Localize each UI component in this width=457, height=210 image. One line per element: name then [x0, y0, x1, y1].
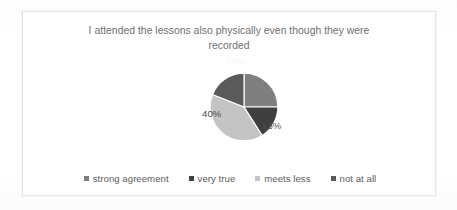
legend-swatch-icon — [255, 176, 260, 181]
legend-item-very-true[interactable]: very true — [189, 173, 236, 184]
pie-data-label-very-true: 16% — [262, 120, 282, 131]
legend-swatch-icon — [189, 176, 194, 181]
pie-svg — [208, 71, 280, 143]
legend-label: meets less — [264, 173, 310, 184]
chart-legend: strong agreement very true meets less no… — [60, 170, 400, 186]
figure-root: I attended the lessons also physically e… — [0, 0, 457, 210]
chart-title-line-1: I attended the lessons also physically e… — [36, 24, 422, 39]
legend-swatch-icon — [84, 176, 89, 181]
legend-swatch-icon — [331, 176, 336, 181]
legend-item-meets-less[interactable]: meets less — [255, 173, 310, 184]
pie-chart: 40% 16% 25% — [150, 60, 340, 160]
legend-label: very true — [198, 173, 236, 184]
pie-data-label-strong-agreement: 25% — [226, 56, 245, 66]
legend-label: not at all — [340, 173, 377, 184]
chart-title-line-2: recorded — [36, 39, 422, 54]
plot-area: 40% 16% 25% — [150, 60, 340, 160]
chart-title: I attended the lessons also physically e… — [36, 24, 422, 53]
legend-label: strong agreement — [93, 173, 169, 184]
pie-data-label-meets-less: 40% — [202, 108, 222, 119]
legend-item-strong-agreement[interactable]: strong agreement — [84, 173, 169, 184]
pie-slice-strong-agreement[interactable] — [244, 73, 278, 107]
legend-item-not-at-all[interactable]: not at all — [331, 173, 377, 184]
